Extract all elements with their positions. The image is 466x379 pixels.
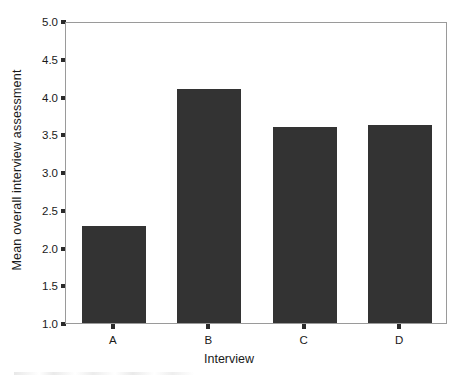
x-axis-tick-mark <box>206 324 210 329</box>
bar-chart-figure: Mean overall interview assessment 5.04.5… <box>0 0 466 379</box>
x-axis-title: Interview <box>0 352 466 366</box>
y-axis-tick-label: 1.5 <box>42 280 58 292</box>
y-axis-title: Mean overall interview assessment <box>0 0 34 340</box>
y-axis-tick-label: 1.0 <box>42 318 58 330</box>
y-axis-tick-label: 4.0 <box>42 92 58 104</box>
y-axis-tick-label: 5.0 <box>42 16 58 28</box>
y-axis-tick-label: 4.5 <box>42 54 58 66</box>
y-axis-tick-label: 2.5 <box>42 205 58 217</box>
y-axis-tick-label: 3.0 <box>42 167 58 179</box>
x-axis-tick-label: C <box>300 334 308 346</box>
y-axis-tick-label: 3.5 <box>42 129 58 141</box>
x-axis-tick-label: D <box>395 334 403 346</box>
x-axis-title-text: Interview <box>204 352 254 366</box>
y-axis-tick-labels: 5.04.54.03.53.02.52.01.51.0 <box>34 0 62 379</box>
bars-container <box>66 23 446 323</box>
y-axis-tick-label: 2.0 <box>42 243 58 255</box>
y-axis-title-text: Mean overall interview assessment <box>10 69 24 270</box>
x-axis-tick-label: A <box>109 334 117 346</box>
bar <box>82 226 146 323</box>
bar <box>368 125 432 323</box>
scan-artifact <box>14 372 194 375</box>
x-axis-tick-mark <box>111 324 115 329</box>
x-axis-tick-mark <box>302 324 306 329</box>
plot-area <box>65 22 447 324</box>
bar <box>273 127 337 323</box>
bar <box>177 89 241 323</box>
x-axis-tick-label: B <box>204 334 212 346</box>
x-axis-tick-mark <box>397 324 401 329</box>
